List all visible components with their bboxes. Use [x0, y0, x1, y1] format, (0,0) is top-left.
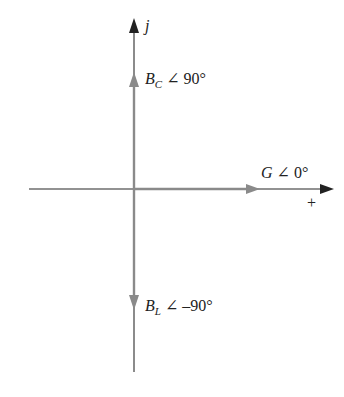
real-axis-arrow-icon — [320, 184, 334, 194]
phasor-bc-symbol: B — [145, 70, 155, 87]
phasor-bl-arrow-icon — [129, 295, 139, 310]
phasor-bc-subscript: C — [155, 78, 162, 90]
imag-axis-label: j — [145, 17, 149, 35]
phasor-bl-label: BL ∠ –90° — [145, 296, 213, 315]
phasor-g-symbol: G — [261, 164, 273, 181]
phasor-bc-arrow-icon — [129, 72, 139, 87]
phasor-g-angle: ∠ 0° — [277, 164, 309, 181]
phasor-bl-angle: ∠ –90° — [165, 297, 213, 314]
real-axis-sign: + — [307, 194, 316, 212]
phasor-bl-subscript: L — [155, 305, 161, 317]
phasor-bc-angle: ∠ 90° — [166, 70, 206, 87]
phasor-bl-symbol: B — [145, 297, 155, 314]
phasor-g-label: G ∠ 0° — [261, 163, 308, 182]
phasor-g-arrow-icon — [246, 184, 260, 194]
imag-axis-arrow-icon — [129, 18, 139, 33]
phasor-diagram — [0, 0, 344, 397]
phasor-bc-label: BC ∠ 90° — [145, 69, 206, 88]
